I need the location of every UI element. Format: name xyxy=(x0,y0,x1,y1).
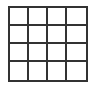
grid-cell-r1-c3 xyxy=(48,8,67,26)
grid-cell-r1-c4 xyxy=(67,8,86,26)
grid-cell-r1-c1 xyxy=(10,8,29,26)
grid-cell-r2-c1 xyxy=(10,26,29,44)
grid-cell-r4-c1 xyxy=(10,62,29,80)
grid-cell-r3-c3 xyxy=(48,44,67,62)
grid-cell-r4-c2 xyxy=(29,62,48,80)
grid-cell-r1-c2 xyxy=(29,8,48,26)
grid-cell-r2-c3 xyxy=(48,26,67,44)
grid-cell-r3-c4 xyxy=(67,44,86,62)
grid-cell-r4-c4 xyxy=(67,62,86,80)
grid-cell-r4-c3 xyxy=(48,62,67,80)
grid-cell-r3-c2 xyxy=(29,44,48,62)
grid-4x4 xyxy=(8,6,88,82)
grid-cell-r2-c4 xyxy=(67,26,86,44)
grid-cell-r2-c2 xyxy=(29,26,48,44)
grid-cell-r3-c1 xyxy=(10,44,29,62)
